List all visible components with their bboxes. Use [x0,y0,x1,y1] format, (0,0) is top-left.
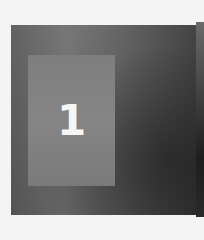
outer-gray-square: 1 [11,25,196,215]
numeral-label: 1 [57,100,86,142]
adjacent-square-edge [196,22,204,217]
inner-light-rectangle: 1 [28,55,115,186]
